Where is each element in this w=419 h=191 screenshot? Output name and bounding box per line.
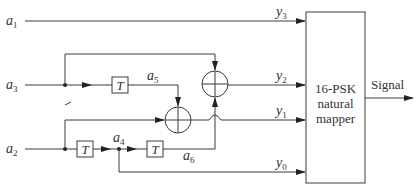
wire-y1 [191, 115, 305, 120]
delay-label-1: T [116, 78, 124, 93]
adder-upper [202, 71, 228, 97]
encoder-diagram: 16-PSK natural mapper Signal a1 a3 a2 a5… [0, 0, 419, 191]
output-label: Signal [371, 77, 405, 92]
delay-label-3: T [151, 142, 159, 157]
wire-a3-to-upper-adder [65, 54, 215, 85]
delay-label-2: T [81, 142, 89, 157]
label-a4: a4 [113, 130, 125, 147]
adder-lower [165, 107, 191, 133]
label-a3: a3 [6, 77, 18, 94]
label-y3: y3 [274, 4, 287, 21]
label-a5: a5 [147, 68, 159, 85]
mapper-line-2: natural [317, 96, 353, 111]
label-y2: y2 [274, 68, 287, 85]
mapper-line-1: 16-PSK [315, 81, 357, 96]
label-y1: y1 [274, 103, 287, 120]
label-a1: a1 [6, 13, 18, 30]
label-a6: a6 [183, 148, 195, 165]
label-y0: y0 [274, 155, 287, 172]
wire-a5 [128, 85, 178, 106]
label-a2: a2 [6, 141, 18, 158]
wire-a6-to-upper-adder [163, 98, 215, 149]
arrow-icon [82, 82, 92, 88]
mapper-line-3: mapper [316, 111, 356, 126]
stray-mark [65, 102, 71, 105]
arrow-icon [101, 146, 111, 152]
arrow-icon [127, 146, 137, 152]
